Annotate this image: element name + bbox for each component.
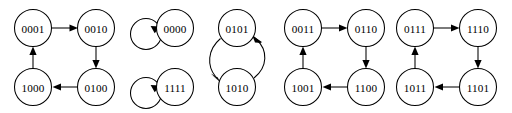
edge-1001-to-0011 [299, 47, 306, 69]
edge-1010-to-0101 [252, 35, 265, 78]
node-label: 0000 [164, 23, 187, 35]
node-0110[interactable]: 0110 [348, 10, 385, 47]
edge-1100-to-1001 [323, 83, 348, 90]
node-label: 1011 [404, 82, 426, 94]
node-label: 1111 [164, 82, 186, 94]
edge-1101-to-1011 [435, 83, 460, 90]
node-0101[interactable]: 0101 [219, 10, 256, 47]
node-label: 1100 [355, 82, 378, 94]
edge-0101-to-1010 [210, 39, 221, 83]
state-diagram: 0001 0010 0100 1000 [0, 0, 512, 113]
edge-0001-to-0010 [52, 24, 78, 31]
node-0100[interactable]: 0100 [78, 69, 115, 106]
node-1010[interactable]: 1010 [219, 69, 256, 106]
node-label: 0111 [404, 23, 426, 35]
node-1000[interactable]: 1000 [15, 69, 52, 106]
edge-0010-to-0100 [92, 47, 99, 69]
component-fixed-points: 0000 1111 [131, 10, 194, 109]
node-1100[interactable]: 1100 [348, 69, 385, 106]
node-label: 0100 [85, 82, 108, 94]
component-cycle-0111: 0111 1110 1101 1011 [397, 10, 497, 106]
component-cycle-0011: 0011 0110 1100 1001 [285, 10, 385, 106]
node-1111[interactable]: 1111 [157, 69, 194, 106]
edge-0100-to-1000 [53, 83, 78, 90]
node-0111[interactable]: 0111 [397, 10, 434, 47]
node-0011[interactable]: 0011 [285, 10, 322, 47]
node-1001[interactable]: 1001 [285, 69, 322, 106]
edge-1000-to-0001 [29, 47, 36, 69]
node-1011[interactable]: 1011 [397, 69, 434, 106]
edge-0110-to-1100 [362, 47, 369, 69]
edge-1110-to-1101 [474, 47, 481, 69]
node-0000[interactable]: 0000 [157, 10, 194, 47]
node-label: 1000 [22, 82, 45, 94]
node-label: 1110 [467, 23, 489, 35]
node-label: 0011 [292, 23, 314, 35]
edge-1011-to-0111 [411, 47, 418, 69]
node-1101[interactable]: 1101 [460, 69, 497, 106]
edge-0011-to-0110 [322, 24, 348, 31]
node-label: 0101 [226, 23, 249, 35]
node-0010[interactable]: 0010 [78, 10, 115, 47]
edge-0111-to-1110 [434, 24, 460, 31]
node-0001[interactable]: 0001 [15, 10, 52, 47]
node-1110[interactable]: 1110 [460, 10, 497, 47]
node-label: 0010 [85, 23, 108, 35]
node-label: 0001 [22, 23, 45, 35]
node-label: 1001 [292, 82, 315, 94]
component-cycle-0101: 0101 1010 [210, 10, 265, 106]
node-label: 0110 [355, 23, 378, 35]
state-diagram-canvas: 0001 0010 0100 1000 [0, 0, 512, 113]
component-cycle-0001: 0001 0010 0100 1000 [15, 10, 115, 106]
node-label: 1101 [467, 82, 489, 94]
node-label: 1010 [226, 82, 249, 94]
